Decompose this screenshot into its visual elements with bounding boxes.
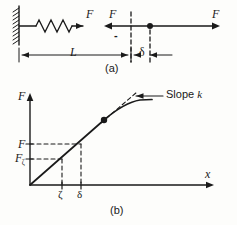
caption-a: (a) [105, 63, 118, 74]
y-tick-label-lower-subscript: ζ [22, 158, 25, 167]
figure-canvas: F F - F L δ (a) F x Slope k F Fζ ζ δ (b) [0, 0, 237, 225]
hatched-wall-icon [13, 6, 19, 45]
panel-b-group [26, 92, 214, 189]
x-axis-label: x [205, 168, 210, 180]
dimension-label-L: L [70, 46, 77, 58]
force-label-left: F [109, 8, 116, 20]
x-tick-label-zeta: ζ [58, 189, 63, 200]
slope-annotation-leader [136, 93, 163, 99]
figure-vector-layer [0, 0, 237, 225]
y-tick-label-lower: Fζ [15, 152, 25, 166]
x-tick-label-delta: δ [77, 189, 82, 200]
y-axis-arrow-head [27, 93, 34, 101]
filled-dot-icon-a [147, 23, 153, 29]
minus-sign-label: - [114, 30, 118, 41]
slope-annotation-symbol: k [197, 88, 202, 100]
y-tick-label-upper: F [18, 138, 25, 150]
force-label-right: F [212, 8, 219, 20]
y-axis-label: F [18, 90, 25, 102]
filled-dot-icon-b [101, 117, 107, 123]
dimension-label-delta: δ [139, 46, 145, 58]
force-label-spring: F [86, 8, 93, 20]
slope-annotation: Slope k [166, 89, 202, 100]
slope-annotation-word: Slope [166, 88, 194, 100]
force-arrow-spring-head [76, 23, 83, 29]
force-deflection-curve [30, 100, 152, 186]
force-arrow-left-head [104, 23, 112, 30]
x-axis-arrow-head [206, 182, 214, 189]
caption-b: (b) [110, 205, 123, 216]
force-arrow-right-head [212, 23, 220, 30]
coil-spring-icon [36, 20, 72, 32]
